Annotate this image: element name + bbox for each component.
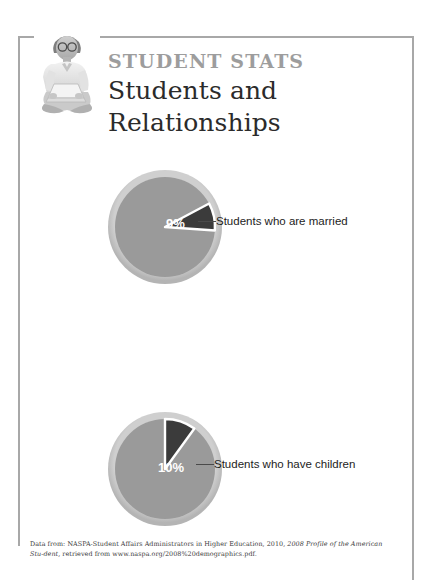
citation-line1-plain: Data from: NASPA-Student Affairs Adminis… (30, 540, 287, 548)
chart-row: 10% Students who have children (0, 410, 433, 530)
leader-line (196, 464, 214, 465)
kicker-label: STUDENT STATS (108, 52, 398, 71)
leader-line (198, 221, 216, 222)
pie-callout-label: Students who are married (216, 214, 348, 229)
chart-row: 9% Students who are married (0, 168, 433, 288)
header-text-block: STUDENT STATS Students and Relationships (108, 52, 398, 139)
page-title: Students and Relationships (108, 75, 398, 139)
pie-chart-married (106, 168, 224, 286)
infographic-page: STUDENT STATS Students and Relationships (0, 0, 433, 580)
pie-chart-group: 9% Students who are married (0, 168, 433, 528)
pie-svg (106, 168, 224, 286)
pie-chart-children (106, 410, 224, 528)
frame-top-right-segment (100, 36, 413, 38)
pie-svg (106, 410, 224, 528)
pie-callout-label: Students who have children (214, 457, 355, 472)
citation-line2-plain: , retrieved from www.naspa.org/2008%20de… (58, 550, 257, 558)
student-photo (28, 26, 106, 118)
source-citation: Data from: NASPA-Student Affairs Adminis… (30, 540, 390, 560)
citation-line2-italic: dent (43, 550, 58, 558)
